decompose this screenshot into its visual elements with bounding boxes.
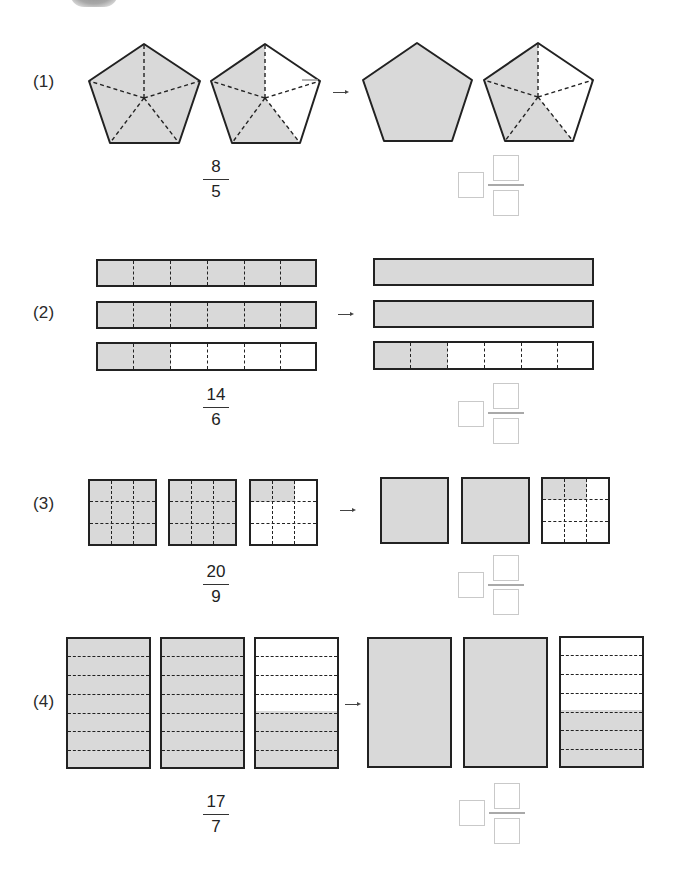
answer-fraction-bar xyxy=(488,584,524,586)
answer-fraction-bar xyxy=(489,812,525,814)
bar-right-2 xyxy=(373,300,594,328)
answer-numerator-box[interactable] xyxy=(493,383,519,409)
square-right-3 xyxy=(541,477,610,544)
rect-left-2 xyxy=(160,637,245,769)
arrow-icon xyxy=(345,704,359,705)
square-right-1 xyxy=(380,477,449,544)
rect-left-1 xyxy=(66,637,151,769)
rect-right-1 xyxy=(367,637,452,768)
given-fraction: 14 6 xyxy=(196,386,236,429)
answer-numerator-box[interactable] xyxy=(493,555,519,581)
fraction-bar xyxy=(203,407,229,408)
given-fraction: 17 7 xyxy=(196,793,236,836)
rect-left-3 xyxy=(254,637,339,769)
answer-denominator-box[interactable] xyxy=(493,418,519,444)
fraction-numerator: 20 xyxy=(196,563,236,581)
answer-denominator-box[interactable] xyxy=(493,190,519,216)
given-fraction: 20 9 xyxy=(196,563,236,606)
rect-right-2 xyxy=(463,637,548,768)
answer-denominator-box[interactable] xyxy=(493,589,519,615)
fraction-denominator: 9 xyxy=(196,588,236,606)
arrow-icon xyxy=(338,314,352,315)
fraction-denominator: 5 xyxy=(196,183,236,201)
arrow-icon xyxy=(340,510,354,511)
fraction-denominator: 6 xyxy=(196,411,236,429)
answer-fraction-bar xyxy=(488,412,524,414)
square-left-3 xyxy=(249,479,318,546)
square-left-1 xyxy=(88,479,157,546)
bar-right-3 xyxy=(373,341,594,370)
answer-whole-box[interactable] xyxy=(458,401,484,427)
answer-numerator-box[interactable] xyxy=(494,783,520,809)
arrow-icon xyxy=(333,92,347,93)
pentagon-left-2 xyxy=(211,44,320,143)
fraction-numerator: 17 xyxy=(196,793,236,811)
problem-label: (2) xyxy=(33,303,54,323)
answer-numerator-box[interactable] xyxy=(493,155,519,181)
bar-left-1 xyxy=(96,259,317,287)
bar-left-3 xyxy=(96,342,317,371)
answer-fraction-bar xyxy=(488,184,524,186)
pentagon-right-1 xyxy=(363,43,472,141)
answer-whole-box[interactable] xyxy=(458,572,484,598)
square-left-2 xyxy=(168,479,237,546)
bar-right-1 xyxy=(373,258,594,286)
bar-left-2 xyxy=(96,301,317,329)
problem-label: (3) xyxy=(33,494,54,514)
fraction-bar xyxy=(203,179,229,180)
problem-label: (4) xyxy=(33,692,54,712)
fraction-denominator: 7 xyxy=(196,818,236,836)
fraction-bar xyxy=(203,814,229,815)
fraction-bar xyxy=(203,584,229,585)
answer-whole-box[interactable] xyxy=(459,800,485,826)
pentagon-left-1 xyxy=(89,44,200,143)
fraction-numerator: 14 xyxy=(196,386,236,404)
square-right-2 xyxy=(461,477,530,544)
given-fraction: 8 5 xyxy=(196,158,236,201)
pentagon-right-2 xyxy=(484,43,593,141)
answer-whole-box[interactable] xyxy=(458,172,484,198)
fraction-numerator: 8 xyxy=(196,158,236,176)
rect-right-3 xyxy=(559,636,644,768)
answer-denominator-box[interactable] xyxy=(494,818,520,844)
